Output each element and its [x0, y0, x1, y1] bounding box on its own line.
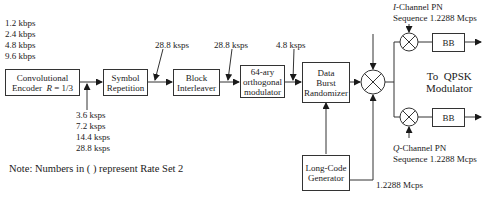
input-rate: 4.8 kbps: [5, 40, 36, 51]
channel-sequence: Sequence 1.2288 Mcps: [393, 154, 477, 165]
block-label: Generator: [306, 173, 347, 183]
long-code-generator-block: Long-Code Generator: [302, 155, 350, 191]
convolutional-encoder-block: Convolutional Encoder R = 1/3: [5, 69, 80, 96]
block-label: Interleaver: [177, 83, 216, 93]
block-label: Long-Code: [306, 163, 347, 173]
q-channel-pn-label: Q-Channel PN Sequence 1.2288 Mcps: [393, 143, 477, 165]
block-interleaver-block: Block Interleaver: [173, 69, 220, 96]
block-label: Block: [177, 73, 216, 83]
channel-sequence: Sequence 1.2288 Mcps: [393, 13, 477, 24]
encoder-output-rate: 14.4 ksps: [76, 132, 110, 143]
block-label: 64-ary: [243, 67, 282, 77]
encoder-output-rate: 28.8 ksps: [76, 143, 110, 154]
output-label: To QPSK: [426, 70, 472, 82]
rate-after-interleaver: 28.8 ksps: [214, 40, 248, 51]
block-label: Data: [304, 68, 348, 78]
block-label: Randomizer: [304, 88, 348, 98]
block-label: orthogonal: [243, 77, 282, 87]
encoder-output-rates: 3.6 ksps 7.2 ksps 14.4 ksps 28.8 ksps: [76, 110, 110, 154]
block-label: modulator: [243, 87, 282, 97]
block-label: Encoder R = 1/3: [12, 83, 73, 93]
input-rate: 1.2 kbps: [5, 18, 36, 29]
orthogonal-modulator-block: 64-ary orthogonal modulator: [240, 65, 285, 98]
block-label: Burst: [304, 78, 348, 88]
channel-label: -Channel PN: [396, 2, 443, 12]
rate-long-code: 1.2288 Mcps: [376, 180, 423, 191]
block-label: Convolutional: [12, 73, 73, 83]
bb-filter-q: BB: [432, 108, 465, 127]
i-channel-pn-label: I-Channel PN Sequence 1.2288 Mcps: [393, 2, 477, 24]
encoder-output-rate: 3.6 ksps: [76, 110, 110, 121]
block-label: Repetition: [107, 83, 145, 93]
block-label: Symbol: [107, 73, 145, 83]
input-rate: 2.4 kbps: [5, 29, 36, 40]
qpsk-modulator-label: To QPSK Modulator: [426, 70, 472, 94]
rate-after-repetition: 28.8 ksps: [155, 40, 189, 51]
encoder-output-rate: 7.2 ksps: [76, 121, 110, 132]
data-burst-randomizer-block: Data Burst Randomizer: [302, 62, 350, 103]
input-rates: 1.2 kbps 2.4 kbps 4.8 kbps 9.6 kbps: [5, 18, 36, 62]
rate-after-modulator: 4.8 ksps: [276, 40, 306, 51]
bb-filter-i: BB: [432, 33, 465, 52]
input-rate: 9.6 kbps: [5, 51, 36, 62]
rate-set-note: Note: Numbers in ( ) represent Rate Set …: [9, 163, 183, 174]
symbol-repetition-block: Symbol Repetition: [103, 69, 148, 96]
block-label: BB: [442, 38, 454, 48]
block-label: BB: [442, 113, 454, 123]
channel-label: -Channel PN: [400, 143, 447, 153]
output-label: Modulator: [426, 82, 472, 94]
